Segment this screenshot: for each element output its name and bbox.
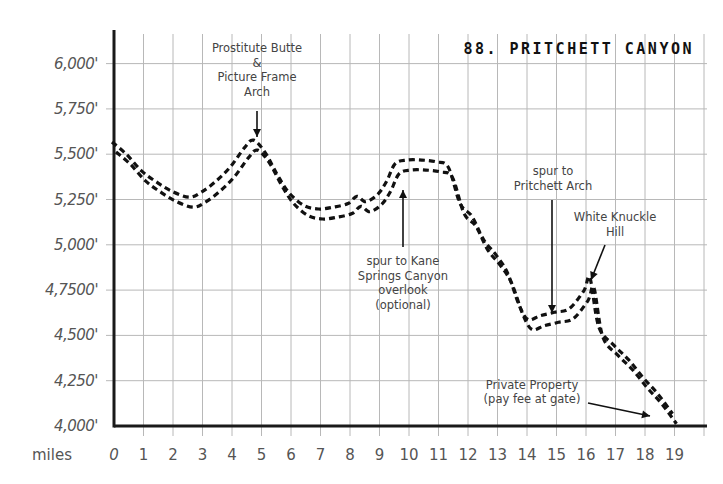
x-tick-label: 7 [316,446,326,464]
y-tick-label: 4,500' [54,326,98,344]
elevation-chart: 4,000'4,250'4,500'4,7500'5,000'5,250'5,5… [0,0,723,484]
arrow-private-property-head [641,410,650,418]
y-tick-label: 5,500' [54,145,98,163]
x-tick-label: 4 [227,446,237,464]
y-tick-label: 6,000' [54,55,98,73]
y-tick-label: 5,750' [54,100,98,118]
x-tick-label: 18 [635,446,654,464]
x-tick-label: 10 [399,446,418,464]
annotations: Prostitute Butte&Picture FrameArchspur t… [212,41,656,418]
arrow-private-property [588,403,650,416]
x-axis-ticks: miles012345678910111213141516171819 [32,446,684,464]
arrow-prostitute-butte-head [253,129,261,137]
x-tick-label: 11 [429,446,448,464]
x-tick-label: 14 [517,446,536,464]
y-tick-label: 5,000' [54,236,98,254]
chart-title: 88. PRITCHETT CANYON [463,40,694,58]
annotation-prostitute-butte: Prostitute Butte&Picture FrameArch [212,41,302,99]
annotation-pritchett-arch-spur: spur toPritchett Arch [514,164,592,193]
annotation-private-property: Private Property(pay fee at gate) [484,378,581,406]
x-tick-label: 16 [576,446,595,464]
x-tick-label: 2 [168,446,178,464]
x-axis-label: miles [32,446,72,464]
x-tick-label: 19 [665,446,684,464]
arrow-kane-springs-spur-head [399,190,407,198]
annotation-kane-springs-spur: spur to KaneSprings Canyonoverlook(optio… [358,254,448,312]
x-tick-label: 6 [286,446,296,464]
x-tick-label: 12 [458,446,477,464]
x-tick-label: 17 [606,446,625,464]
x-tick-label: 1 [139,446,149,464]
x-tick-label: 3 [198,446,208,464]
x-tick-label: 13 [488,446,507,464]
x-tick-label: 5 [257,446,267,464]
y-tick-label: 4,250' [54,372,98,390]
y-tick-label: 5,250' [54,191,98,209]
x-tick-label: 15 [547,446,566,464]
y-tick-label: 4,7500' [45,281,98,299]
x-tick-label: 9 [375,446,385,464]
y-tick-label: 4,000' [54,417,98,435]
x-tick-label: 8 [345,446,355,464]
y-axis-ticks: 4,000'4,250'4,500'4,7500'5,000'5,250'5,5… [45,55,98,435]
x-tick-label: 0 [109,446,119,464]
